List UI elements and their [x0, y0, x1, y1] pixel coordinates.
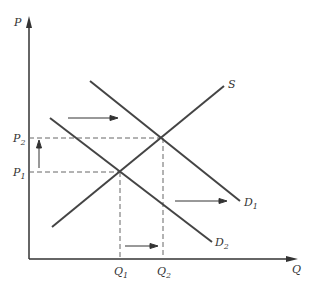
- x-axis-label: Q: [292, 263, 301, 276]
- p1-label: P1: [12, 166, 26, 181]
- guide-lines: [29, 138, 163, 259]
- q1-label: Q1: [114, 265, 128, 280]
- curves: [50, 81, 240, 242]
- arrow-head-icon: [110, 116, 118, 121]
- demand-curve-d2: [50, 118, 212, 242]
- d1-label: D1: [243, 196, 258, 211]
- q2-label: Q2: [157, 265, 171, 280]
- y-axis-label: P: [13, 16, 22, 29]
- supply-curve: [52, 86, 224, 227]
- demand-curve-d1: [90, 81, 240, 201]
- arrow-head-icon: [219, 199, 227, 204]
- d2-label: D2: [214, 236, 229, 251]
- y-axis-arrow-icon: [26, 16, 32, 28]
- shift-arrows: [37, 116, 228, 249]
- p2-label: P2: [12, 132, 26, 147]
- supply-label: S: [228, 78, 236, 91]
- x-axis-arrow-icon: [286, 256, 298, 262]
- arrow-head-icon: [150, 244, 158, 249]
- arrow-head-icon: [37, 140, 42, 148]
- supply-demand-diagram: P Q P2 P1 Q1 Q2 S D1 D2: [0, 0, 316, 288]
